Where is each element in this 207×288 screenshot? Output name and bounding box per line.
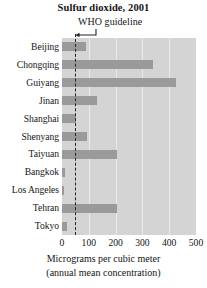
x-tick-300: 300 bbox=[135, 237, 149, 248]
y-axis-label-tehran: Tehran bbox=[0, 202, 59, 213]
y-axis-label-shenyang: Shenyang bbox=[0, 131, 59, 142]
bar bbox=[62, 150, 117, 159]
bar bbox=[62, 168, 65, 177]
x-tick-0: 0 bbox=[60, 237, 65, 248]
plot-area bbox=[62, 38, 196, 235]
x-tick-100: 100 bbox=[82, 237, 96, 248]
y-axis-label-taiyuan: Taiyuan bbox=[0, 148, 59, 159]
y-axis-label-tokyo: Tokyo bbox=[0, 220, 59, 231]
y-axis-label-chongqing: Chongqing bbox=[0, 59, 59, 70]
x-tick-400: 400 bbox=[162, 237, 176, 248]
bar bbox=[62, 96, 97, 105]
x-tick-200: 200 bbox=[108, 237, 122, 248]
x-axis-label-line2: (annual mean concentration) bbox=[0, 266, 207, 280]
x-axis-label: Micrograms per cubic meter (annual mean … bbox=[0, 252, 207, 280]
bar bbox=[62, 204, 117, 213]
x-tick-500: 500 bbox=[189, 237, 203, 248]
bar bbox=[62, 114, 76, 123]
bar bbox=[62, 186, 64, 195]
bar bbox=[62, 78, 176, 87]
y-axis-label-bangkok: Bangkok bbox=[0, 166, 59, 177]
bar bbox=[62, 42, 86, 51]
x-axis-label-line1: Micrograms per cubic meter bbox=[47, 253, 161, 264]
who-guideline-line bbox=[75, 34, 76, 235]
y-axis-label-jinan: Jinan bbox=[0, 95, 59, 106]
y-axis-label-guiyang: Guiyang bbox=[0, 77, 59, 88]
chart-title: Sulfur dioxide, 2001 bbox=[0, 2, 207, 13]
chart-figure: Sulfur dioxide, 2001 WHO guideline Beiji… bbox=[0, 0, 207, 288]
x-axis-tick-labels: 0100200300400500 bbox=[0, 237, 207, 250]
y-axis-label-shanghai: Shanghai bbox=[0, 113, 59, 124]
gridline bbox=[169, 38, 170, 235]
y-axis-label-los-angeles: Los Angeles bbox=[0, 184, 59, 195]
y-axis-label-beijing: Beijing bbox=[0, 41, 59, 52]
bar bbox=[62, 222, 67, 231]
who-guideline-arrow-icon bbox=[75, 28, 97, 37]
y-axis-category-labels: BeijingChongqingGuiyangJinanShanghaiShen… bbox=[0, 38, 59, 235]
who-guideline-annotation-label: WHO guideline bbox=[78, 16, 142, 27]
